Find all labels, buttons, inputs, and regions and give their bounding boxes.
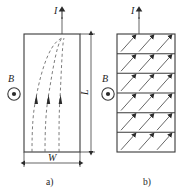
panel-a-width-label: W [48,152,58,163]
out-of-page-dot-icon [12,92,16,96]
panel-b-group: B I b) [102,5,175,188]
panel-b-caption: b) [143,177,151,188]
panel-b-field-label: B [102,73,108,84]
figure-canvas: B L W I a) [0,0,189,195]
panel-a-width-dimension: W [24,152,80,167]
out-of-page-dot-icon [106,92,110,96]
panel-a-field-label: B [8,73,14,84]
panel-a-caption: a) [46,177,53,188]
panel-a-group: B L W I a) [8,5,95,188]
panel-a-length-dimension: L [79,34,95,152]
panel-b-current-label: I [130,5,135,16]
physics-figure: B L W I a) [0,0,189,195]
panel-b-field-marker: B [102,73,114,100]
panel-a-field-marker: B [8,73,20,100]
panel-a-streamline-arrowheads [34,95,62,105]
panel-a-streamlines [32,38,64,152]
panel-a-current-label: I [53,5,58,16]
panel-a-length-label: L [79,89,90,96]
